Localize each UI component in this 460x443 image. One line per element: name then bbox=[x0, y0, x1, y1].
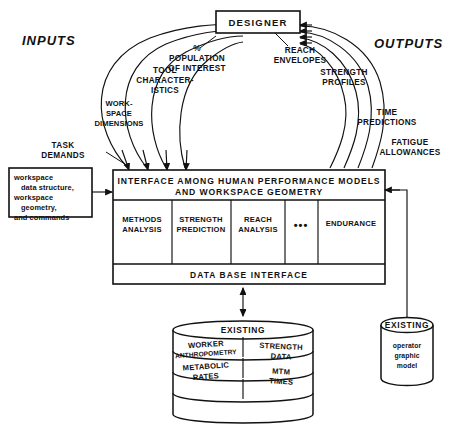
svg-text:geometry,: geometry, bbox=[21, 203, 57, 212]
database-header-label: EXISTING bbox=[221, 325, 266, 335]
output-label-strength-profiles: STRENGTH PROFILES bbox=[320, 68, 367, 87]
svg-text:PROFILES: PROFILES bbox=[322, 78, 366, 87]
database-cell-mtm-times: MTM TIMES bbox=[269, 366, 294, 386]
svg-text:TIME: TIME bbox=[377, 108, 398, 117]
output-label-reach-envelopes: REACH ENVELOPES bbox=[274, 46, 327, 65]
svg-text:operator: operator bbox=[393, 342, 422, 350]
svg-text:workspace: workspace bbox=[13, 173, 53, 182]
svg-text:PREDICTION: PREDICTION bbox=[177, 225, 226, 234]
module-strength-prediction[interactable]: STRENGTH PREDICTION bbox=[177, 215, 226, 234]
svg-text:model: model bbox=[397, 362, 418, 369]
svg-text:METABOLIC: METABOLIC bbox=[182, 360, 229, 372]
svg-text:METHODS: METHODS bbox=[122, 215, 161, 224]
svg-text:INTERFACE AMONG HUMAN PERFORMA: INTERFACE AMONG HUMAN PERFORMANCE MODELS bbox=[118, 176, 381, 186]
svg-text:workspace: workspace bbox=[13, 193, 53, 202]
svg-text:STRENGTH: STRENGTH bbox=[259, 341, 303, 352]
data-base-interface-label: DATA BASE INTERFACE bbox=[190, 270, 308, 280]
svg-text:•••: ••• bbox=[294, 219, 309, 231]
svg-text:POPULATION: POPULATION bbox=[169, 54, 225, 63]
svg-text:ANALYSIS: ANALYSIS bbox=[238, 225, 277, 234]
database-cell-metabolic-rates: METABOLIC RATES bbox=[182, 360, 229, 382]
svg-text:REACH: REACH bbox=[244, 215, 272, 224]
database-cell-strength-data: STRENGTH DATA bbox=[259, 341, 303, 362]
operator-model-header-label: EXISTING bbox=[385, 320, 430, 330]
svg-text:ENVELOPES: ENVELOPES bbox=[274, 56, 327, 65]
input-label-task-demands: TASK DEMANDS bbox=[41, 141, 85, 160]
svg-text:STRENGTH: STRENGTH bbox=[320, 68, 367, 77]
designer-label: DESIGNER bbox=[228, 17, 287, 28]
input-label-workspace-dimensions: WORK- SPACE DIMENSIONS bbox=[94, 99, 143, 128]
svg-text:FATIGUE: FATIGUE bbox=[392, 138, 429, 147]
svg-text:AND WORKSPACE GEOMETRY: AND WORKSPACE GEOMETRY bbox=[175, 187, 323, 197]
svg-text:and commands: and commands bbox=[14, 213, 69, 222]
svg-text:STRENGTH: STRENGTH bbox=[179, 215, 222, 224]
svg-text:DATA: DATA bbox=[271, 351, 293, 361]
module-reach-analysis[interactable]: REACH ANALYSIS bbox=[238, 215, 277, 234]
svg-text:REACH: REACH bbox=[285, 46, 316, 55]
svg-text:graphic: graphic bbox=[394, 352, 419, 360]
svg-text:TIMES: TIMES bbox=[269, 376, 294, 387]
outputs-label: OUTPUTS bbox=[374, 36, 443, 51]
operator-model-text: operator graphic model bbox=[393, 342, 422, 369]
input-label-population-of-interest: % POPULATION OF INTEREST bbox=[168, 44, 225, 73]
svg-text:DIMENSIONS: DIMENSIONS bbox=[94, 119, 143, 128]
svg-text:ENDURANCE: ENDURANCE bbox=[326, 219, 376, 228]
svg-text:MTM: MTM bbox=[272, 366, 290, 376]
svg-text:RATES: RATES bbox=[192, 371, 219, 382]
svg-text:ALLOWANCES: ALLOWANCES bbox=[379, 148, 440, 157]
svg-text:DEMANDS: DEMANDS bbox=[41, 151, 85, 160]
svg-text:CHARACTER-: CHARACTER- bbox=[136, 76, 194, 85]
svg-text:OF INTEREST: OF INTEREST bbox=[168, 64, 225, 73]
svg-text:WORK-: WORK- bbox=[105, 99, 132, 108]
svg-text:PREDICTIONS: PREDICTIONS bbox=[357, 118, 416, 127]
svg-text:data structure,: data structure, bbox=[21, 183, 74, 192]
svg-text:ANTHROPOMETRY: ANTHROPOMETRY bbox=[175, 348, 238, 359]
diagram-canvas: DESIGNER INPUTS OUTPUTS TASK DEMANDS WOR… bbox=[0, 0, 460, 443]
svg-text:TASK: TASK bbox=[52, 141, 75, 150]
module-ellipsis: ••• bbox=[294, 219, 309, 231]
svg-text:ISTICS: ISTICS bbox=[151, 86, 179, 95]
svg-text:ANALYSIS: ANALYSIS bbox=[122, 225, 161, 234]
svg-text:%: % bbox=[193, 44, 201, 53]
svg-text:SPACE: SPACE bbox=[106, 109, 132, 118]
output-label-time-predictions: TIME PREDICTIONS bbox=[357, 108, 416, 127]
module-endurance[interactable]: ENDURANCE bbox=[326, 219, 376, 228]
module-methods-analysis[interactable]: METHODS ANALYSIS bbox=[122, 215, 161, 234]
database-cell-worker-anthropometry: WORKER ANTHROPOMETRY bbox=[175, 339, 238, 359]
inputs-label: INPUTS bbox=[22, 33, 76, 48]
input-data-box-text: workspace data structure, workspace geom… bbox=[13, 173, 74, 222]
interface-title: INTERFACE AMONG HUMAN PERFORMANCE MODELS… bbox=[118, 176, 381, 197]
output-label-fatigue-allowances: FATIGUE ALLOWANCES bbox=[379, 138, 440, 157]
